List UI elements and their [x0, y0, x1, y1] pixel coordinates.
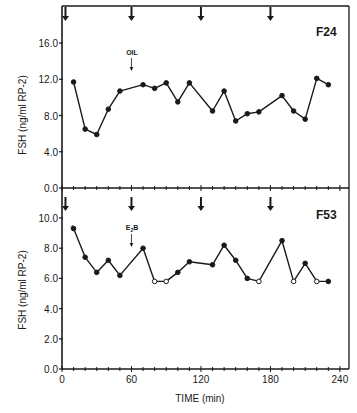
y-tick-label: 2.0 [44, 334, 58, 345]
data-point [245, 111, 250, 116]
y-tick-label: 0.0 [44, 183, 58, 194]
y-tick-label: 0.0 [44, 364, 58, 375]
y-tick-label: 4.0 [44, 147, 58, 158]
data-point [233, 119, 238, 124]
arrowhead-icon [197, 16, 204, 21]
data-line [74, 78, 329, 134]
panel-label-f24: F24 [316, 25, 337, 39]
fsh-figure: 0.04.08.012.016.0 0.02.04.06.08.010.0060… [0, 0, 357, 413]
data-point [187, 81, 192, 86]
arrowhead-icon [267, 206, 274, 211]
data-point [303, 261, 308, 266]
arrowhead-icon [62, 206, 69, 211]
data-point [164, 81, 169, 86]
data-point [326, 82, 331, 87]
x-tick-label: 60 [126, 374, 138, 385]
data-point [106, 107, 111, 112]
panel-label-f53: F53 [316, 208, 337, 222]
data-point [118, 273, 123, 278]
data-point [141, 246, 146, 251]
arrowhead-icon [267, 16, 274, 21]
y-axis-label-bottom: FSH (ng/ml RP-2) [17, 250, 28, 329]
data-point [326, 279, 331, 284]
data-point [141, 82, 146, 87]
data-point [94, 132, 99, 137]
data-point [222, 89, 227, 94]
x-tick-label: 0 [59, 374, 65, 385]
asterisk-annotation: * [70, 222, 75, 237]
y-tick-label: 4.0 [44, 304, 58, 315]
data-point [152, 86, 157, 91]
data-point [83, 127, 88, 132]
data-point-open [257, 279, 262, 284]
y-tick-label: 8.0 [44, 111, 58, 122]
data-point [94, 270, 99, 275]
data-point [71, 80, 76, 85]
x-tick-label: 240 [332, 374, 349, 385]
e2b-annotation: E2B [126, 224, 139, 233]
y-tick-label: 6.0 [44, 273, 58, 284]
treatment-arrowhead-icon [130, 243, 134, 247]
y-tick-label: 16.0 [39, 38, 59, 49]
arrowhead-icon [128, 206, 135, 211]
y-tick-label: 12.0 [39, 74, 59, 85]
data-point-open [152, 279, 157, 284]
x-tick-label: 120 [193, 374, 210, 385]
data-point [176, 100, 181, 105]
treatment-arrowhead-icon [130, 67, 134, 71]
y-tick-label: 8.0 [44, 243, 58, 254]
x-axis-label: TIME (min) [175, 393, 224, 404]
data-point [291, 109, 296, 114]
data-point [118, 89, 123, 94]
data-point-open [164, 279, 169, 284]
oil-annotation: OIL [126, 49, 138, 56]
y-tick-label: 10.0 [39, 213, 59, 224]
data-point [187, 259, 192, 264]
panel-f24: 0.04.08.012.016.0 [39, 7, 349, 194]
data-point [222, 243, 227, 248]
data-point [314, 76, 319, 81]
data-point [280, 93, 285, 98]
data-point-open [314, 279, 319, 284]
arrowhead-icon [62, 16, 69, 21]
x-tick-label: 180 [262, 374, 279, 385]
arrowhead-icon [197, 206, 204, 211]
data-point-open [291, 279, 296, 284]
panel-f53: 0.02.04.06.08.010.0060120180240 [39, 197, 349, 385]
data-point [210, 109, 215, 114]
data-point [176, 270, 181, 275]
y-axis-label-top: FSH (ng/ml RP-2) [17, 75, 28, 154]
data-line [74, 229, 329, 282]
arrowhead-icon [128, 16, 135, 21]
data-point [245, 276, 250, 281]
data-point [83, 255, 88, 260]
data-point [106, 258, 111, 263]
data-point [233, 258, 238, 263]
data-point [280, 238, 285, 243]
data-point [210, 263, 215, 268]
data-point [257, 110, 262, 115]
data-point [303, 117, 308, 122]
